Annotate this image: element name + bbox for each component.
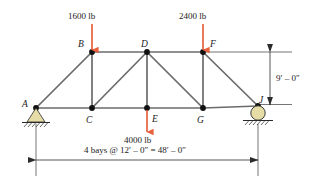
node-label-G: G [197, 116, 204, 126]
truss-joint-G [200, 105, 206, 111]
dimension-label-height-dimension: 9′ – 0″ [276, 74, 300, 83]
dimension-label-span-dimension: 4 bays @ 12′ – 0″ = 48′ – 0″ [84, 146, 186, 155]
load-label-B: 1600 lb [68, 12, 95, 21]
pin-support-triangle [27, 108, 45, 122]
truss-diagram: ABCDEFGJ1600 lb2400 lb4000 lb4 bays @ 12… [0, 0, 315, 188]
support-roller-J [243, 106, 273, 125]
node-label-F: F [210, 40, 216, 50]
truss-joint-C [89, 105, 95, 111]
roller-ground-hatch [245, 121, 269, 126]
node-label-J: J [259, 96, 263, 106]
truss-joint-D [144, 49, 150, 55]
node-label-C: C [86, 116, 92, 126]
load-label-F: 2400 lb [179, 12, 206, 21]
truss-member-GJ [203, 106, 258, 108]
load-label-E: 4000 lb [124, 136, 151, 145]
node-label-D: D [141, 40, 148, 50]
truss-members [36, 52, 258, 108]
node-label-B: B [78, 40, 84, 50]
truss-canvas [0, 0, 315, 188]
node-label-A: A [22, 100, 28, 110]
truss-member-AB [36, 52, 92, 108]
truss-member-CD [92, 52, 147, 108]
roller-support-circle [251, 106, 265, 120]
node-label-E: E [152, 115, 158, 125]
truss-member-FJ [203, 52, 258, 106]
truss-member-DG [147, 52, 203, 108]
